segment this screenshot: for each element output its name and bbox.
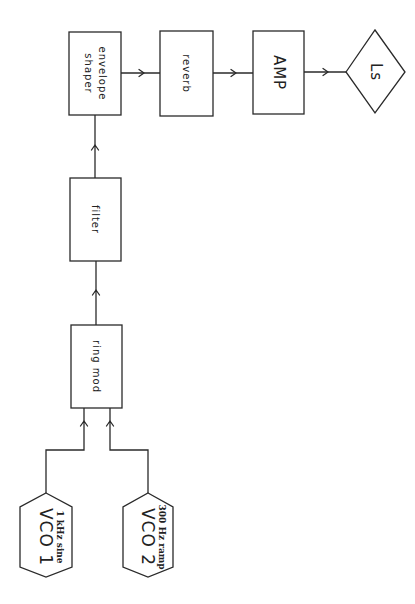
wire-ring-mod-to-filter bbox=[93, 261, 100, 325]
envelope-shaper-label-line2: shaper bbox=[83, 53, 94, 93]
wire-envelope-shaper-to-reverb bbox=[121, 70, 160, 77]
block-amp: AMP bbox=[253, 31, 304, 114]
block-envelope-shaper: envelope shaper bbox=[69, 32, 121, 115]
filter-label: filter bbox=[90, 205, 101, 234]
block-reverb: reverb bbox=[160, 31, 213, 116]
source-vco1: VCO 1 1 kHz sine bbox=[20, 493, 72, 577]
vco1-sublabel: 1 kHz sine bbox=[55, 510, 65, 563]
block-ring-mod: ring mod bbox=[71, 325, 122, 408]
wire-filter-to-envelope-shaper bbox=[92, 115, 99, 178]
wire-amp-to-loudspeaker bbox=[304, 69, 346, 76]
signal-chain-diagram: envelope shaper reverb AMP Ls filter ri bbox=[0, 0, 415, 604]
output-loudspeaker: Ls bbox=[346, 30, 405, 113]
amp-label: AMP bbox=[270, 55, 288, 90]
vco2-label: VCO 2 bbox=[138, 508, 158, 566]
loudspeaker-label: Ls bbox=[367, 63, 385, 81]
reverb-label: reverb bbox=[181, 54, 192, 93]
envelope-shaper-label-line1: envelope bbox=[97, 47, 108, 101]
source-vco2: VCO 2 300 Hz ramp bbox=[123, 493, 173, 577]
vco1-label: VCO 1 bbox=[36, 508, 56, 566]
wire-reverb-to-amp bbox=[213, 70, 253, 77]
ring-mod-label: ring mod bbox=[91, 340, 102, 393]
wire-vco2-to-ring-mod bbox=[107, 408, 149, 493]
wire-vco1-to-ring-mod bbox=[46, 408, 88, 493]
vco2-sublabel: 300 Hz ramp bbox=[157, 504, 167, 569]
block-filter: filter bbox=[70, 178, 121, 261]
